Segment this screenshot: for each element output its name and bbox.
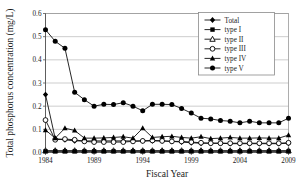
marker-type-v-18 [218,118,223,123]
chart-container: 0.00.10.20.30.40.50.61984198919941999200… [0,0,306,184]
marker-type-i-21 [247,149,251,153]
marker-type-i-22 [257,149,261,153]
legend-label-type-iv: type IV [225,55,248,63]
marker-type-iii-19 [228,141,233,146]
marker-type-v-15 [189,111,194,116]
marker-type-iii-16 [199,140,204,145]
marker-type-i-23 [267,149,271,153]
legend-label-type-v: type V [225,65,245,73]
marker-type-iii-10 [140,139,145,144]
y-tick-label-2: 0.2 [33,103,42,111]
y-tick-label-1: 0.1 [33,126,42,134]
marker-type-i-5 [92,149,96,153]
marker-type-i-25 [286,149,290,153]
legend-label-type-ii: type II [225,36,245,44]
marker-type-v-0 [43,27,48,32]
legend-label-type-iii: type III [225,45,247,53]
marker-type-v-1 [53,39,58,44]
x-axis-title: Fiscal Year [146,169,189,179]
marker-type-v-5 [92,104,97,109]
marker-type-v-19 [228,119,233,124]
marker-type-i-2 [63,149,67,153]
marker-type-v-9 [130,104,135,109]
y-tick-label-3: 0.3 [33,80,42,88]
marker-type-v-14 [179,106,184,111]
marker-type-v-2 [62,46,67,51]
y-tick-label-6: 0.6 [33,10,42,18]
marker-type-iii-5 [92,140,97,145]
marker-type-i-14 [179,149,183,153]
marker-type-i-9 [131,149,135,153]
marker-type-v-20 [237,120,242,125]
marker-type-i-15 [189,149,193,153]
marker-type-iii-18 [218,141,223,146]
marker-type-v-17 [208,116,213,121]
marker-type-iii-22 [257,141,262,146]
y-axis-title: Total phosphorus concentration (mg/L) [5,9,16,158]
marker-type-v-13 [169,102,174,107]
marker-type-iii-17 [208,141,213,146]
marker-type-i-7 [111,149,115,153]
x-tick-label-4: 2004 [233,157,248,165]
marker-type-i-8 [121,149,125,153]
marker-type-iii-8 [121,140,126,145]
marker-type-i-17 [209,149,213,153]
marker-type-i-12 [160,149,164,153]
marker-type-v-25 [286,116,291,121]
marker-type-i-3 [72,149,76,153]
marker-type-iii-3 [72,137,77,142]
marker-type-iii-15 [189,140,194,145]
marker-type-v-legend [210,66,215,71]
marker-type-v-8 [121,100,126,105]
marker-type-iii-7 [111,140,116,145]
x-tick-label-5: 2009 [281,157,296,165]
x-tick-label-3: 1999 [184,157,199,165]
marker-type-v-22 [257,120,262,125]
marker-type-v-10 [140,108,145,113]
marker-type-i-6 [102,149,106,153]
marker-type-i-0 [43,149,47,153]
marker-type-iii-21 [247,141,252,146]
marker-type-v-24 [276,120,281,125]
marker-type-iii-14 [179,139,184,144]
marker-type-v-4 [82,97,87,102]
x-tick-label-2: 1994 [136,157,151,165]
marker-type-iii-23 [267,141,272,146]
marker-type-i-4 [82,149,86,153]
x-tick-label-0: 1984 [38,157,53,165]
legend-label-type-i: type I [225,26,242,34]
marker-type-v-3 [72,90,77,95]
marker-type-iii-24 [276,141,281,146]
marker-type-iii-12 [160,139,165,144]
marker-type-v-12 [160,102,165,107]
marker-type-v-23 [267,120,272,125]
x-tick-label-1: 1989 [87,157,102,165]
marker-type-i-16 [199,149,203,153]
y-tick-label-5: 0.5 [33,33,42,41]
marker-type-i-13 [170,149,174,153]
marker-type-iii-legend [210,46,215,51]
marker-type-iii-0 [43,118,48,123]
marker-type-iii-2 [63,137,68,142]
marker-type-v-11 [150,102,155,107]
phosphorus-line-chart: 0.00.10.20.30.40.50.61984198919941999200… [0,0,306,184]
marker-type-i-10 [141,149,145,153]
marker-type-v-6 [101,102,106,107]
marker-type-v-21 [247,119,252,124]
marker-type-i-20 [238,149,242,153]
marker-type-iii-20 [238,141,243,146]
marker-type-i-19 [228,149,232,153]
y-tick-label-4: 0.4 [33,56,42,64]
marker-type-iii-13 [169,139,174,144]
marker-type-v-16 [199,116,204,121]
marker-type-v-7 [111,102,116,107]
marker-type-i-legend [210,27,214,31]
marker-type-i-11 [150,149,154,153]
marker-type-i-1 [53,149,57,153]
marker-type-i-24 [277,149,281,153]
legend-label-total: Total [225,17,240,25]
marker-type-i-18 [218,149,222,153]
marker-type-iii-6 [101,140,106,145]
marker-type-iii-25 [286,140,291,145]
